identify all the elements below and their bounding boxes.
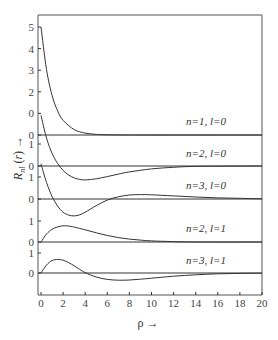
panel-label: n=3, l=1	[186, 254, 226, 266]
y-tick-label: 0	[29, 107, 35, 119]
curve-n-3-l-1	[41, 259, 262, 280]
curve-n-1-l-0	[41, 27, 262, 135]
panel-label: n=2, l=0	[186, 147, 226, 159]
y-tick-label: 4	[29, 43, 35, 55]
x-tick-label: 18	[234, 297, 246, 309]
y-tick-label: 1	[29, 215, 35, 227]
x-tick-label: 16	[212, 297, 224, 309]
plot-frame	[38, 15, 262, 295]
frame-rect	[38, 15, 262, 295]
x-axis-title: ρ →	[138, 316, 159, 330]
y-tick-label: 1	[29, 138, 35, 150]
y-axis-title: Rnl (r) →	[11, 136, 27, 181]
panel-label: n=2, l=1	[186, 222, 226, 234]
x-tick-label: 14	[190, 297, 202, 309]
y-tick-label: 1	[29, 247, 35, 259]
y-tick-label: 0	[29, 193, 35, 205]
x-tick-label: 10	[146, 297, 158, 309]
x-tick-label: 0	[38, 297, 44, 309]
x-tick-label: 20	[257, 297, 269, 309]
y-axis-title-text: Rnl (r) →	[11, 136, 27, 181]
y-tick-label: 1	[29, 171, 35, 183]
x-tick-label: 8	[127, 297, 133, 309]
curve-n-2-l-0	[41, 115, 262, 180]
y-axis-ticks: 00234501010101	[29, 21, 42, 279]
panel-label: n=3, l=0	[186, 179, 226, 191]
y-tick-label: 5	[29, 21, 35, 33]
y-tick-label: 3	[29, 64, 35, 76]
curve-n-3-l-0	[41, 164, 262, 216]
radial-wavefunction-chart: 00234501010101 02468101214161820 n=1, l=…	[0, 0, 278, 340]
y-tick-label: 0	[29, 267, 35, 279]
panel-labels: n=1, l=0n=2, l=0n=3, l=0n=2, l=1n=3, l=1	[186, 115, 226, 266]
x-tick-label: 2	[60, 297, 66, 309]
panel-label: n=1, l=0	[186, 115, 226, 127]
x-tick-label: 6	[105, 297, 111, 309]
panel-baselines	[38, 135, 262, 273]
curve-n-2-l-1	[41, 226, 262, 242]
x-tick-label: 12	[168, 297, 179, 309]
x-tick-label: 4	[82, 297, 88, 309]
y-tick-label: 2	[29, 86, 35, 98]
